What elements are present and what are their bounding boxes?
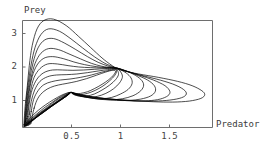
orbit-curve (24, 19, 205, 127)
orbit-curve (25, 38, 170, 126)
orbit-curve (29, 70, 116, 126)
x-axis-title: Predator (216, 120, 259, 129)
orbit-curve (25, 48, 155, 126)
y-axis-title: Prey (24, 6, 46, 15)
y-tick-label-3: 3 (6, 29, 17, 38)
y-tick-label-2: 2 (6, 62, 17, 71)
x-tick-label-1: 1 (109, 132, 132, 141)
axis-ticks (23, 34, 170, 128)
chart-root: 3 2 1 0.5 1 1.5 Prey Predator (0, 0, 270, 149)
orbit-curve (27, 68, 122, 126)
plot-frame (23, 21, 213, 128)
x-tick-label-1-5: 1.5 (153, 132, 186, 141)
orbit-curve (28, 69, 118, 126)
x-tick-label-0-5: 0.5 (55, 132, 88, 141)
y-tick-label-1: 1 (6, 96, 17, 105)
orbit-curves (24, 19, 205, 127)
